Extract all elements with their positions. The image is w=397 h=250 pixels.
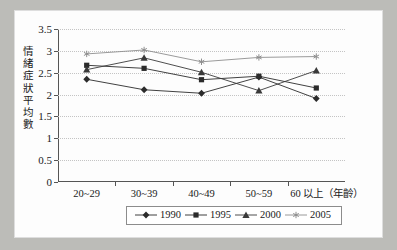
series-2005 [84, 47, 319, 65]
legend-label: 2005 [310, 210, 334, 221]
plot-area: 00.511.522.533.5 20~2930~3940~4950~5960 … [58, 29, 345, 182]
x-tick-label: 40~49 [188, 189, 215, 200]
y-axis-title-char: 均 [21, 107, 35, 119]
y-axis-title-char: 情 [21, 46, 35, 58]
y-axis-title: 情緒症狀平均數 [21, 46, 35, 131]
legend-item-1990[interactable]: 1990 [134, 209, 184, 221]
x-tick [173, 182, 174, 186]
y-tick-label: 1 [47, 133, 53, 144]
legend-label: 2000 [260, 210, 284, 221]
data-point-marker [313, 95, 320, 102]
legend-label: 1990 [160, 210, 184, 221]
triangle-icon [234, 209, 258, 221]
data-point-marker [256, 74, 261, 79]
x-tick-label: 60 以上（年齡） [290, 189, 363, 200]
x-tick [230, 182, 231, 186]
y-tick [54, 182, 58, 183]
scanned-page: 情緒症狀平均數 00.511.522.533.5 20~2930~3940~49… [0, 0, 397, 250]
series-layer [58, 29, 345, 182]
y-tick-label: 3 [47, 45, 53, 56]
y-axis-title-char: 數 [21, 119, 35, 131]
data-point-marker [141, 54, 148, 61]
paper-sheet: 情緒症狀平均數 00.511.522.533.5 20~2930~3940~49… [14, 10, 383, 238]
legend-item-1995[interactable]: 1995 [184, 209, 234, 221]
data-point-marker [255, 87, 262, 94]
x-tick-label: 50~59 [246, 189, 273, 200]
diamond-icon [134, 209, 158, 221]
data-point-marker [143, 212, 150, 219]
data-point-marker [313, 67, 320, 74]
y-tick-label: 2 [47, 89, 53, 100]
y-axis-title-char: 平 [21, 95, 35, 107]
data-point-marker [198, 90, 205, 97]
legend-label: 1995 [210, 210, 234, 221]
x-tick-label: 30~39 [131, 189, 158, 200]
y-tick-label: 1.5 [38, 111, 52, 122]
legend-item-2000[interactable]: 2000 [234, 209, 284, 221]
y-tick-label: 2.5 [38, 67, 52, 78]
asterisk-icon [284, 209, 308, 221]
data-point-marker [141, 86, 148, 93]
data-point-marker [199, 77, 204, 82]
x-tick [288, 182, 289, 186]
square-icon [184, 209, 208, 221]
chart-legend: 1990199520002005 [126, 206, 342, 225]
y-axis-title-char: 症 [21, 70, 35, 82]
line-chart-figure: 情緒症狀平均數 00.511.522.533.5 20~2930~3940~49… [14, 10, 383, 238]
data-point-marker [314, 85, 319, 90]
x-tick [115, 182, 116, 186]
data-point-marker [142, 66, 147, 71]
y-tick-label: 3.5 [38, 24, 52, 35]
legend-item-2005[interactable]: 2005 [284, 209, 334, 221]
y-tick-label: 0 [47, 177, 53, 188]
data-point-marker [83, 76, 90, 83]
y-axis-title-char: 狀 [21, 83, 35, 95]
data-point-marker [193, 212, 198, 217]
y-tick-label: 0.5 [38, 155, 52, 166]
y-axis-title-char: 緒 [21, 58, 35, 70]
x-tick-label: 20~29 [73, 189, 100, 200]
